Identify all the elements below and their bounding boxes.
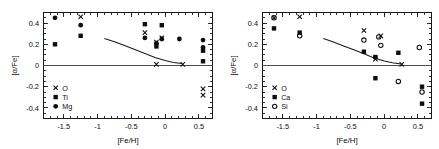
marker-square — [373, 55, 377, 59]
series-ti — [53, 22, 205, 64]
model-curve — [104, 38, 182, 63]
legend-entry-ca: Ca — [272, 93, 290, 102]
x-tick-label: 0 — [382, 122, 386, 131]
marker-circle-open — [272, 104, 276, 108]
marker-square — [362, 50, 366, 54]
legend-label: Ca — [281, 93, 290, 102]
panel-left-plot: -1.5-1-0.500.5-0.4-0.200.20.4[Fe/H][α/Fe… — [0, 0, 220, 149]
marker-square — [143, 22, 147, 26]
x-tick-label: -0.5 — [125, 122, 138, 131]
marker-cross — [143, 30, 147, 34]
x-tick-label: 0.5 — [413, 122, 423, 131]
marker-cross — [78, 15, 82, 19]
series-o — [78, 15, 205, 98]
y-tick-label: -0.2 — [26, 82, 39, 91]
marker-circle-filled — [201, 38, 206, 43]
x-tick-label: -1 — [313, 122, 320, 131]
marker-circle-filled — [143, 36, 148, 41]
marker-circle-open — [420, 90, 424, 94]
x-tick-label: 0.5 — [194, 122, 204, 131]
series-o — [272, 15, 404, 67]
x-tick-label: -1.5 — [57, 122, 70, 131]
legend-label: Mg — [62, 102, 72, 111]
alpha-fe-abundance-figure: -1.5-1-0.500.5-0.4-0.200.20.4[Fe/H][α/Fe… — [0, 0, 439, 149]
y-tick-label: 0 — [35, 61, 39, 70]
marker-cross — [272, 86, 276, 90]
x-axis-title: [Fe/H] — [117, 136, 138, 145]
marker-cross — [201, 87, 205, 91]
marker-circle-filled — [78, 23, 83, 28]
y-tick-label: 0 — [254, 61, 258, 70]
marker-square — [396, 51, 400, 55]
marker-square — [373, 76, 377, 80]
marker-square — [420, 101, 424, 105]
marker-square — [272, 26, 276, 30]
y-tick-label: 0.4 — [248, 19, 258, 28]
marker-circle-open — [379, 43, 383, 47]
legend-label: Si — [281, 102, 288, 111]
legend-entry-mg: Mg — [53, 102, 72, 111]
x-tick-label: -1 — [94, 122, 101, 131]
legend-label: Ti — [62, 93, 68, 102]
marker-circle-filled — [201, 45, 206, 50]
series-mg — [53, 15, 206, 49]
y-tick-label: -0.2 — [245, 82, 258, 91]
marker-circle-filled — [159, 37, 164, 42]
marker-square — [420, 85, 424, 89]
marker-square — [78, 34, 82, 38]
marker-square — [160, 23, 164, 27]
marker-square — [53, 95, 57, 99]
marker-square — [272, 95, 276, 99]
marker-circle-filled — [53, 15, 58, 20]
marker-circle-filled — [177, 37, 182, 42]
panel-left: -1.5-1-0.500.5-0.4-0.200.20.4[Fe/H][α/Fe… — [0, 0, 220, 149]
y-tick-label: -0.4 — [245, 104, 258, 113]
x-tick-label: -0.5 — [344, 122, 357, 131]
x-axis-title: [Fe/H] — [336, 136, 357, 145]
y-tick-label: 0.2 — [248, 40, 258, 49]
legend-label: O — [62, 84, 68, 93]
marker-square — [53, 42, 57, 46]
marker-circle-open — [362, 38, 366, 42]
marker-circle-open — [396, 79, 400, 83]
marker-cross — [362, 28, 366, 32]
x-tick-label: -1.5 — [276, 122, 289, 131]
y-axis-title: [α/Fe] — [10, 55, 19, 75]
panel-right: -1.5-1-0.500.5-0.4-0.200.20.4[Fe/H][α/Fe… — [219, 0, 439, 149]
x-tick-label: 0 — [163, 122, 167, 131]
legend-entry-o: O — [53, 84, 68, 93]
marker-cross — [53, 86, 57, 90]
legend-entry-o: O — [272, 84, 287, 93]
y-tick-label: 0.2 — [29, 40, 39, 49]
marker-square — [201, 59, 205, 63]
panel-right-plot: -1.5-1-0.500.5-0.4-0.200.20.4[Fe/H][α/Fe… — [219, 0, 439, 149]
legend-label: O — [281, 84, 287, 93]
series-si — [272, 16, 424, 95]
marker-circle-filled — [154, 41, 159, 46]
marker-circle-filled — [53, 104, 58, 109]
legend-entry-ti: Ti — [53, 93, 68, 102]
marker-cross — [201, 93, 205, 97]
y-tick-label: 0.4 — [29, 19, 39, 28]
marker-cross — [297, 15, 301, 19]
y-tick-label: -0.4 — [26, 104, 39, 113]
legend-entry-si: Si — [272, 102, 287, 111]
y-axis-title: [α/Fe] — [229, 55, 238, 75]
marker-circle-open — [417, 45, 421, 49]
